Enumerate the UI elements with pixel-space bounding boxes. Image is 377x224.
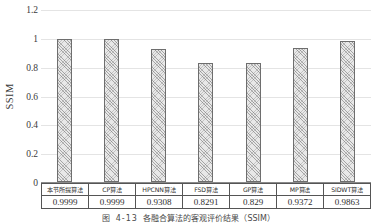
data-table: 本节所提算法 CP算法 HPCNN算法 FSD算法 GP算法 MP算法 SIDW… — [41, 183, 371, 209]
y-tick-label: 0.2 — [6, 149, 38, 159]
table-cell-category: FSD算法 — [183, 184, 230, 196]
figure-caption: 图 4-13 各融合算法的客观评价结果（SSIM） — [0, 212, 377, 224]
bar-slot — [230, 10, 277, 182]
bar — [151, 49, 166, 182]
bar-slot — [324, 10, 371, 182]
table-cell-value: 0.9308 — [136, 196, 183, 209]
table-cell-value: 0.829 — [230, 196, 277, 209]
caption-text: 各融合算法的客观评价结果（SSIM） — [143, 214, 274, 223]
table-cell-value: 0.9372 — [277, 196, 324, 209]
bar — [246, 63, 261, 182]
y-tick-label: 0.8 — [6, 63, 38, 73]
y-tick-label: 0.6 — [6, 92, 38, 102]
table-row-values: 0.9999 0.9999 0.9308 0.8291 0.829 0.9372… — [42, 196, 371, 209]
bar-slot — [135, 10, 182, 182]
y-tick-label: 0 — [6, 178, 38, 188]
table-row-categories: 本节所提算法 CP算法 HPCNN算法 FSD算法 GP算法 MP算法 SIDW… — [42, 184, 371, 196]
bar-series — [41, 10, 371, 182]
y-tick-label: 0.4 — [6, 120, 38, 130]
table-cell-category: MP算法 — [277, 184, 324, 196]
table-cell-category: SIDWT算法 — [324, 184, 371, 196]
bar — [340, 41, 355, 182]
caption-prefix: 图 — [102, 214, 110, 223]
bar-slot — [41, 10, 88, 182]
y-tick-label: 1.2 — [6, 5, 38, 15]
caption-number: 4-13 — [116, 214, 138, 223]
bar — [198, 63, 213, 182]
table-cell-value: 0.8291 — [183, 196, 230, 209]
plot-area — [41, 10, 371, 183]
y-tick-label: 1 — [6, 34, 38, 44]
y-axis-tick-labels: 1.2 1 0.8 0.6 0.4 0.2 0 — [0, 0, 38, 224]
figure-ssim-bar-chart: SSIM 1.2 1 0.8 0.6 0.4 0.2 0 本节所提算法 — [0, 0, 377, 224]
bar-slot — [182, 10, 229, 182]
table-cell-category: CP算法 — [89, 184, 136, 196]
bar — [104, 39, 119, 182]
bar-slot — [277, 10, 324, 182]
bar-slot — [88, 10, 135, 182]
table-cell-category: 本节所提算法 — [42, 184, 89, 196]
table-cell-value: 0.9999 — [42, 196, 89, 209]
table-cell-value: 0.9999 — [89, 196, 136, 209]
table-cell-value: 0.9863 — [324, 196, 371, 209]
table-cell-category: GP算法 — [230, 184, 277, 196]
table-cell-category: HPCNN算法 — [136, 184, 183, 196]
bar — [57, 39, 72, 182]
bar — [293, 48, 308, 182]
